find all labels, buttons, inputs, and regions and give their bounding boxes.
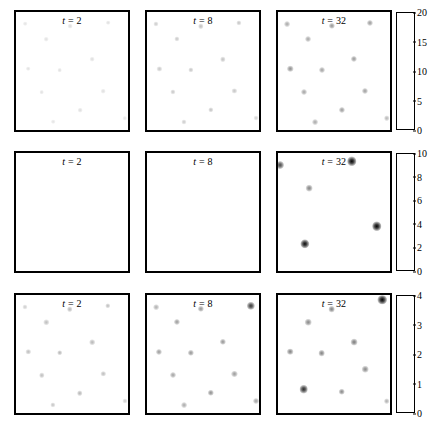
heatmap-row-1: t = 2t = 8t = 320246810 (0, 143, 440, 283)
heatmap-blob (329, 23, 335, 29)
heatmap-blob (26, 349, 31, 354)
colorbar-tick: 0 (417, 408, 422, 419)
colorbar-tick-labels: 05101520 (417, 12, 440, 130)
heatmap-blob (26, 66, 31, 71)
colorbar-tick-mark (413, 177, 416, 178)
heatmap-blob (57, 67, 62, 72)
heatmap-panel-r1-c2[interactable]: t = 32 (276, 151, 392, 273)
heatmap-blob (188, 350, 194, 356)
heatmap-blob (247, 301, 255, 309)
heatmap-blob (287, 65, 293, 71)
heatmap-blob (232, 88, 237, 93)
colorbar-tick-mark (413, 271, 416, 272)
heatmap-blob (306, 185, 313, 192)
heatmap-blob (287, 348, 294, 355)
heatmap-panel-r2-c1[interactable]: t = 8 (145, 293, 261, 415)
heatmap-blob (351, 339, 358, 346)
heatmap-field (16, 295, 128, 413)
colorbar-tick-mark (413, 224, 416, 225)
heatmap-blob (299, 385, 308, 394)
colorbar-tick-labels: 0246810 (417, 153, 440, 271)
colorbar-tick: 1 (417, 378, 422, 389)
colorbar-tick-mark (413, 153, 416, 154)
colorbar-tick: 4 (417, 290, 422, 301)
heatmap-blob (44, 37, 49, 42)
heatmap-blob (157, 66, 162, 71)
heatmap-blob (57, 350, 63, 356)
heatmap-field (147, 295, 259, 413)
heatmap-panel-r0-c0[interactable]: t = 2 (14, 10, 130, 132)
colorbar-tick-mark (413, 42, 416, 43)
heatmap-field (278, 12, 390, 130)
heatmap-blob (312, 119, 318, 125)
colorbar-tick: 8 (417, 171, 422, 182)
heatmap-blob (384, 115, 390, 121)
heatmap-blob (181, 119, 186, 124)
colorbar-tick-mark (413, 354, 416, 355)
heatmap-blob (372, 221, 382, 231)
heatmap-blob (231, 371, 237, 377)
heatmap-blob (39, 90, 44, 95)
heatmap-blob (198, 306, 204, 312)
heatmap-blob (362, 366, 369, 373)
colorbar-tick-mark (413, 247, 416, 248)
heatmap-blob (301, 89, 307, 95)
colorbar-row-0: 05101520 (396, 12, 440, 130)
heatmap-blob (253, 398, 259, 404)
heatmap-blob (90, 57, 95, 62)
heatmap-blob (351, 56, 357, 62)
heatmap-blob (339, 107, 345, 113)
heatmap-panel-r0-c2[interactable]: t = 32 (276, 10, 392, 132)
heatmap-blob (170, 90, 175, 95)
heatmap-blob (122, 399, 127, 404)
heatmap-blob (236, 20, 241, 25)
heatmap-blob (276, 161, 284, 169)
colorbar-tick-mark (413, 12, 416, 13)
heatmap-blob (220, 339, 226, 345)
colorbar-tick: 2 (417, 349, 422, 360)
colorbar-tick: 0 (417, 125, 422, 136)
heatmap-blob (181, 402, 187, 408)
heatmap-field (147, 153, 259, 271)
colorbar-tick-mark (413, 384, 416, 385)
colorbar-tick-mark (413, 295, 416, 296)
heatmap-blob (122, 116, 127, 121)
colorbar-tick-mark (413, 130, 416, 131)
heatmap-field (16, 12, 128, 130)
heatmap-blob (319, 67, 325, 73)
heatmap-blob (105, 20, 110, 25)
heatmap-panel-r1-c0[interactable]: t = 2 (14, 151, 130, 273)
heatmap-blob (208, 107, 213, 112)
colorbar-tick: 5 (417, 95, 422, 106)
heatmap-blob (318, 349, 325, 356)
colorbar-tick-mark (413, 325, 416, 326)
colorbar-tick-mark (413, 101, 416, 102)
heatmap-blob (208, 390, 214, 396)
heatmap-blob (367, 20, 373, 26)
colorbar-tick-mark (413, 71, 416, 72)
heatmap-panel-r2-c0[interactable]: t = 2 (14, 293, 130, 415)
colorbar-row-2: 01234 (396, 295, 440, 413)
colorbar-tick-mark (413, 200, 416, 201)
heatmap-blob (67, 24, 72, 29)
heatmap-panel-r2-c2[interactable]: t = 32 (276, 293, 392, 415)
heatmap-blob (221, 57, 226, 62)
heatmap-blob (300, 239, 309, 248)
colorbar-tick: 10 (417, 148, 427, 159)
heatmap-blob (77, 390, 83, 396)
colorbar-row-1: 0246810 (396, 153, 440, 271)
heatmap-blob (89, 339, 95, 345)
heatmap-panel-r0-c1[interactable]: t = 8 (145, 10, 261, 132)
heatmap-blob (23, 21, 28, 26)
colorbar-tick: 20 (417, 7, 427, 18)
colorbar-tick: 15 (417, 36, 427, 47)
heatmap-panel-r1-c1[interactable]: t = 8 (145, 151, 261, 273)
heatmap-blob (362, 88, 368, 94)
heatmap-blob (39, 373, 44, 378)
heatmap-blob (174, 319, 180, 325)
heatmap-blob (328, 306, 335, 313)
colorbar-gradient (396, 153, 415, 271)
heatmap-blob (377, 295, 387, 305)
heatmap-blob (284, 21, 290, 27)
heatmap-blob (51, 119, 56, 124)
